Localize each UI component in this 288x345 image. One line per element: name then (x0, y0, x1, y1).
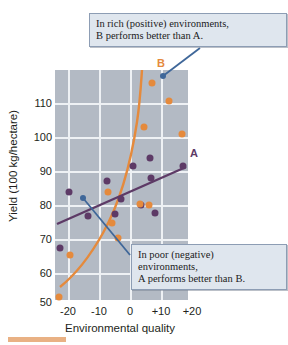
callout-line: In rich (positive) environments, (96, 18, 280, 30)
data-point (152, 210, 159, 217)
gridline-y-90 (55, 171, 188, 173)
y-axis-label: Yield (100 kg/hectare) (7, 91, 19, 241)
data-point (115, 235, 122, 242)
gridline-x-minus20 (68, 70, 70, 300)
x-tick-label: 0 (127, 305, 133, 317)
y-tick-label: 70 (40, 233, 52, 245)
y-tick-label: 110 (34, 97, 52, 109)
y-tick-label: 90 (40, 165, 52, 177)
callout-line: B performs better than A. (96, 30, 280, 42)
data-point (130, 163, 137, 170)
y-tick-label: 60 (40, 267, 52, 279)
callout-line: environments, (138, 261, 280, 273)
curve-label-a: A (190, 147, 198, 159)
y-tick-label: 100 (34, 131, 52, 143)
data-point (179, 131, 186, 138)
x-tick-label: +10 (152, 305, 171, 317)
data-point (105, 189, 112, 196)
y-tick-label: 50 (40, 296, 52, 308)
data-point (146, 202, 153, 209)
data-point (137, 201, 144, 208)
data-point (56, 294, 63, 301)
gridline-x-minus10 (99, 70, 101, 300)
chart-figure: B A 110 100 90 80 70 60 50 -20 -10 0 +10… (0, 0, 288, 345)
gridline-y-70 (55, 239, 188, 241)
data-point (149, 80, 156, 87)
page-edge-strip (8, 337, 66, 342)
callout-rich-environments: In rich (positive) environments, B perfo… (89, 13, 287, 47)
x-tick-label: -10 (91, 305, 107, 317)
data-point (66, 189, 73, 196)
data-point (104, 178, 111, 185)
data-point (109, 220, 116, 227)
data-point (180, 163, 187, 170)
x-axis-label: Environmental quality (0, 322, 240, 334)
data-point (166, 98, 173, 105)
gridline-y-100 (55, 137, 188, 139)
gridline-y-80 (55, 205, 188, 207)
y-tick-label: 80 (40, 199, 52, 211)
x-tick-label: +20 (183, 305, 202, 317)
callout-line: A performs better than B. (138, 273, 280, 285)
data-point (118, 196, 125, 203)
x-tick-label: -20 (60, 305, 76, 317)
data-point (67, 252, 74, 259)
data-point (57, 245, 64, 252)
data-point (141, 124, 148, 131)
data-point (85, 213, 92, 220)
curve-label-b: B (157, 57, 165, 69)
data-point (148, 175, 155, 182)
callout-poor-environments: In poor (negative) environments, A perfo… (131, 244, 287, 290)
data-point (147, 155, 154, 162)
data-point (112, 211, 119, 218)
callout-line: In poor (negative) (138, 249, 280, 261)
